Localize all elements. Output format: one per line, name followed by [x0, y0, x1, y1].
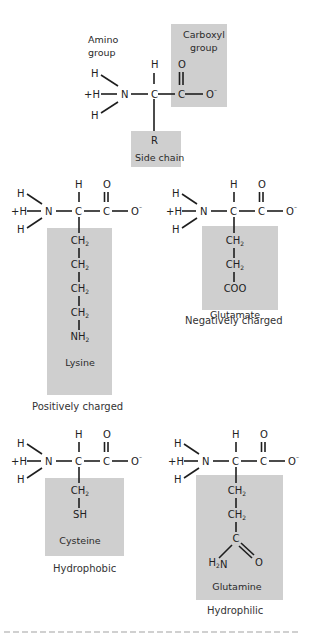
charge-minus: – [294, 203, 297, 210]
atom-o-double: O [258, 179, 266, 190]
panel-cysteine: H+HHNCHCOO–CH2SHCysteineHydrophobic [11, 429, 142, 574]
lysine-category-caption: Positively charged [32, 401, 123, 412]
atom-c-alpha: C [232, 456, 239, 467]
atom-o-minus: O [131, 456, 139, 467]
atom-h-top-left: H [172, 188, 180, 199]
atom-o-minus: O [206, 89, 214, 100]
atom-n: N [45, 456, 52, 467]
atom-h-bottom-left: H [17, 224, 25, 235]
truncated-caption [0, 628, 315, 634]
atom-h-top-left: H [17, 188, 25, 199]
atom-c-carboxyl: C [103, 206, 110, 217]
atom-c-carboxyl: C [258, 206, 265, 217]
atom-h-alpha: H [151, 59, 159, 70]
atom-h-bottom-left: H [174, 474, 182, 485]
side-chain-atom: COO [224, 283, 247, 294]
atom-n: N [121, 89, 128, 100]
atom-n: N [202, 456, 209, 467]
amino-acid-panels: H+HHNCHCOO–CH2CH2CH2CH2NH2LysinePositive… [11, 179, 299, 616]
glutamate-category-caption: Negatively charged [185, 315, 283, 326]
charge-minus: – [139, 453, 142, 460]
atom-c-alpha: C [151, 89, 158, 100]
atom-o-double: O [178, 59, 186, 70]
amino-group-label-line2: group [88, 47, 116, 58]
atom-o-double: O [103, 429, 111, 440]
atom-plus-h: +H [84, 89, 100, 100]
atom-h-bottom-left: H [17, 474, 25, 485]
atom-h-alpha: H [232, 429, 240, 440]
general-structure: Amino group Carboxyl group H +H H N C H … [84, 24, 227, 167]
atom-plus-h: +H [11, 206, 27, 217]
atom-plus-h: +H [168, 456, 184, 467]
atom-n: N [200, 206, 207, 217]
panel-lysine: H+HHNCHCOO–CH2CH2CH2CH2NH2LysinePositive… [11, 179, 142, 412]
carboxyl-group-label-line2: group [190, 42, 218, 53]
atom-c-carboxyl: C [103, 456, 110, 467]
atom-h-top-left: H [17, 438, 25, 449]
atom-h-alpha: H [230, 179, 238, 190]
panel-glutamate: H+HHNCHCOO–CH2CH2COOGlutamateNegatively … [166, 179, 297, 326]
atom-c-alpha: C [75, 456, 82, 467]
atom-o-double: O [260, 429, 268, 440]
atom-h-bottom-left: H [172, 224, 180, 235]
charge-minus: – [214, 86, 217, 93]
atom-c-carboxyl: C [260, 456, 267, 467]
cysteine-category-caption: Hydrophobic [53, 563, 116, 574]
atom-h-top-left: H [174, 438, 182, 449]
atom-h-top-left: H [91, 68, 99, 79]
amino-group-label-line1: Amino [88, 34, 118, 45]
atom-c-carboxyl: C [178, 89, 185, 100]
atom-c-alpha: C [75, 206, 82, 217]
atom-n: N [45, 206, 52, 217]
side-chain-atom: SH [73, 509, 87, 520]
side-chain-atom: O [255, 557, 263, 568]
charge-minus: – [139, 203, 142, 210]
amino-acid-diagram: Amino group Carboxyl group H +H H N C H … [0, 0, 315, 634]
glutamine-category-caption: Hydrophilic [207, 605, 263, 616]
lysine-name: Lysine [65, 357, 95, 368]
side-chain-r: R [151, 135, 158, 146]
atom-c-alpha: C [230, 206, 237, 217]
glutamine-name: Glutamine [212, 581, 261, 592]
atom-plus-h: +H [11, 456, 27, 467]
atom-plus-h: +H [166, 206, 182, 217]
cysteine-name: Cysteine [59, 535, 100, 546]
atom-o-minus: O [288, 456, 296, 467]
atom-o-minus: O [286, 206, 294, 217]
atom-h-bottom-left: H [91, 110, 99, 121]
atom-o-minus: O [131, 206, 139, 217]
atom-h-alpha: H [75, 179, 83, 190]
panel-glutamine: H+HHNCHCOO–CH2CH2CH2NOGlutamineHydrophil… [168, 429, 299, 616]
side-chain-atom: C [233, 533, 240, 544]
atom-h-alpha: H [75, 429, 83, 440]
atom-o-double: O [103, 179, 111, 190]
side-chain-label: Side chain [135, 152, 184, 163]
carboxyl-group-label-line1: Carboxyl [183, 29, 225, 40]
charge-minus: – [296, 453, 299, 460]
